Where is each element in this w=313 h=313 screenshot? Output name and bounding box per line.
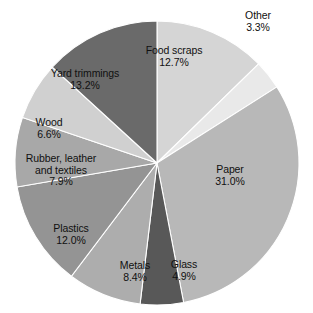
- pie-chart: Food scraps12.7%Other3.3%Paper31.0%Glass…: [0, 0, 313, 313]
- pie-slice-group: [15, 21, 299, 305]
- pie-chart-canvas: [0, 0, 313, 313]
